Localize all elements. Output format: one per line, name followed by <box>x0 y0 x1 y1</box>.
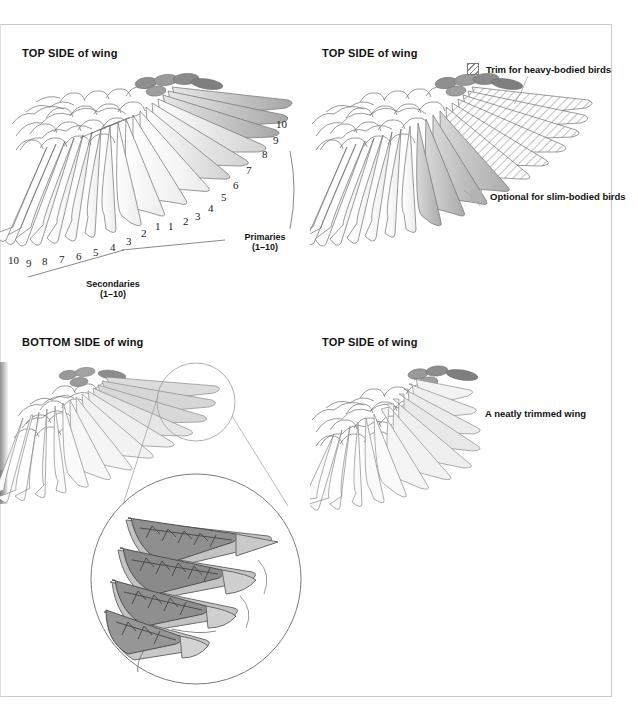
panel-title-bottom-left: BOTTOM SIDE of wing <box>22 336 144 348</box>
panel-bottom-left: BOTTOM SIDE of wing <box>0 324 310 694</box>
secondary-tick-6: 6 <box>76 250 82 262</box>
secondary-tick-1: 1 <box>155 220 161 232</box>
primary-tick-10: 10 <box>276 118 287 130</box>
legend-swatch-trim-heavy <box>467 63 479 75</box>
wing-diagram-bottom-with-magnifier <box>0 324 310 694</box>
page-root: TOP SIDE of wing <box>0 0 638 713</box>
secondary-tick-7: 7 <box>59 253 65 265</box>
primaries-axis-label: Primaries (1–10) <box>222 232 308 252</box>
secondaries-axis-label: Secondaries (1–10) <box>58 279 168 299</box>
legend-label-trim-heavy: Trim for heavy-bodied birds <box>486 64 611 75</box>
primary-tick-4: 4 <box>208 202 214 214</box>
caption-neatly-trimmed-wing: A neatly trimmed wing <box>485 408 586 419</box>
secondary-tick-10: 10 <box>8 254 19 266</box>
primary-tick-3: 3 <box>195 210 201 222</box>
secondary-tick-4: 4 <box>110 241 116 253</box>
panel-bottom-right: TOP SIDE of wing <box>310 324 612 624</box>
panel-title-top-right: TOP SIDE of wing <box>322 47 418 59</box>
wing-diagram-trimmed-result <box>310 324 612 624</box>
panel-top-left: TOP SIDE of wing <box>0 24 310 324</box>
secondary-tick-9: 9 <box>26 257 32 269</box>
panel-title-bottom-right: TOP SIDE of wing <box>322 336 418 348</box>
primary-tick-2: 2 <box>183 215 189 227</box>
secondary-tick-5: 5 <box>93 246 99 258</box>
secondary-tick-8: 8 <box>42 255 48 267</box>
primary-tick-8: 8 <box>262 148 268 160</box>
secondary-tick-2: 2 <box>141 227 147 239</box>
primary-tick-1: 1 <box>168 220 174 232</box>
primary-tick-9: 9 <box>273 134 279 146</box>
primary-tick-6: 6 <box>233 179 239 191</box>
primary-tick-7: 7 <box>246 164 252 176</box>
primary-tick-5: 5 <box>221 191 227 203</box>
legend-label-optional-slim: Optional for slim-bodied birds <box>490 191 626 202</box>
legend-swatch-optional-slim <box>470 190 482 202</box>
secondary-tick-3: 3 <box>126 235 132 247</box>
panel-title-top-left: TOP SIDE of wing <box>22 47 118 59</box>
panel-top-right: TOP SIDE of wing <box>310 24 612 324</box>
